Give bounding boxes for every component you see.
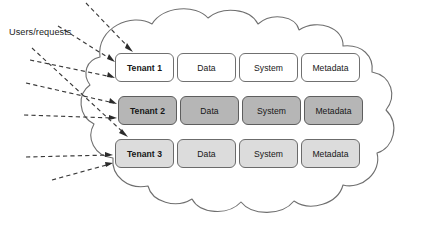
tenant-system-cell[interactable]: System bbox=[239, 53, 298, 82]
tenant-row[interactable]: Tenant 2 Data System Metadata bbox=[118, 96, 363, 125]
tenant-data-cell[interactable]: Data bbox=[180, 96, 239, 125]
tenant-row[interactable]: Tenant 1 Data System Metadata bbox=[115, 53, 360, 82]
tenant-metadata-cell[interactable]: Metadata bbox=[301, 53, 360, 82]
tenant-system-cell[interactable]: System bbox=[242, 96, 301, 125]
tenant-data-cell[interactable]: Data bbox=[177, 53, 236, 82]
tenant-data-cell[interactable]: Data bbox=[177, 139, 236, 168]
tenant-name-cell[interactable]: Tenant 3 bbox=[115, 139, 174, 168]
tenant-metadata-cell[interactable]: Metadata bbox=[304, 96, 363, 125]
diagram-canvas: Users/requests Tenant 1 Data System Meta… bbox=[0, 0, 423, 236]
tenant-name-cell[interactable]: Tenant 2 bbox=[118, 96, 177, 125]
tenant-metadata-cell[interactable]: Metadata bbox=[301, 139, 360, 168]
tenant-row[interactable]: Tenant 3 Data System Metadata bbox=[115, 139, 360, 168]
tenant-name-cell[interactable]: Tenant 1 bbox=[115, 53, 174, 82]
tenant-rows: Tenant 1 Data System Metadata Tenant 2 D… bbox=[0, 0, 423, 236]
tenant-system-cell[interactable]: System bbox=[239, 139, 298, 168]
